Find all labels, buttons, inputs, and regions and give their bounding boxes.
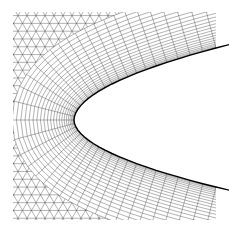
airfoil-mesh-diagram (0, 0, 229, 235)
